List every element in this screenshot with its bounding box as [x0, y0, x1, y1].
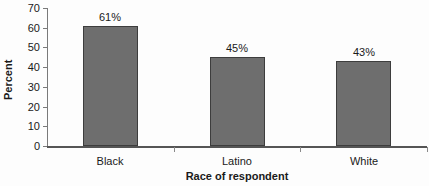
- x-tick: [427, 147, 428, 152]
- y-tick: [43, 67, 48, 68]
- y-tick-label: 40: [18, 62, 40, 73]
- bar: [83, 26, 138, 146]
- y-axis-title: Percent: [0, 52, 16, 108]
- bar: [336, 61, 391, 146]
- y-tick-label: 20: [18, 102, 40, 113]
- y-tick: [43, 47, 48, 48]
- y-tick: [43, 28, 48, 29]
- bar-value-label: 61%: [80, 11, 140, 23]
- y-tick: [43, 8, 48, 9]
- y-tick-label: 0: [18, 141, 40, 152]
- y-tick-label: 50: [18, 42, 40, 53]
- y-tick: [43, 126, 48, 127]
- bar: [210, 57, 265, 146]
- y-tick: [43, 107, 48, 108]
- x-tick: [174, 147, 175, 152]
- y-tick: [43, 87, 48, 88]
- x-category-label: Latino: [187, 155, 287, 168]
- bar-chart: Percent 010203040506070 61%45%43% BlackL…: [0, 0, 429, 186]
- x-category-label: White: [314, 155, 414, 168]
- x-axis-line: [47, 146, 427, 148]
- y-tick-label: 10: [18, 121, 40, 132]
- x-axis-title: Race of respondent: [47, 170, 427, 183]
- bar-value-label: 45%: [207, 42, 267, 54]
- x-category-label: Black: [60, 155, 160, 168]
- y-tick-label: 60: [18, 23, 40, 34]
- bar-value-label: 43%: [334, 46, 394, 58]
- y-tick-label: 30: [18, 82, 40, 93]
- x-tick: [300, 147, 301, 152]
- y-tick-label: 70: [18, 3, 40, 14]
